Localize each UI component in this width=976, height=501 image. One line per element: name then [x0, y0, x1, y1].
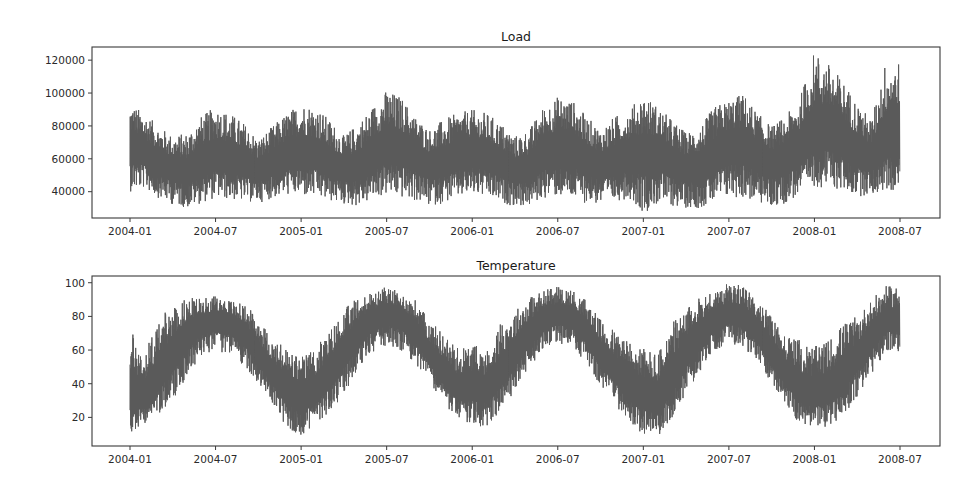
temperature-plot-area: [130, 284, 900, 434]
load-chart-title: Load: [501, 29, 531, 44]
x-tick-label: 2007-01: [621, 225, 665, 237]
load-series-line: [130, 56, 900, 211]
load-y-axis: 400006000080000100000120000: [45, 54, 92, 198]
y-tick-label: 80000: [52, 120, 85, 132]
x-tick-label: 2005-01: [279, 453, 323, 465]
y-tick-label: 40000: [52, 185, 85, 197]
y-tick-label: 40: [72, 378, 85, 390]
x-tick-label: 2007-07: [707, 225, 751, 237]
temperature-chart-title: Temperature: [475, 258, 555, 273]
temperature-y-axis: 20406080100: [65, 277, 92, 424]
y-tick-label: 120000: [45, 54, 85, 66]
x-tick-label: 2004-07: [194, 453, 238, 465]
y-tick-label: 100000: [45, 87, 85, 99]
load-x-axis: 2004-012004-072005-012005-072006-012006-…: [108, 218, 922, 237]
x-tick-label: 2008-01: [793, 225, 837, 237]
x-tick-label: 2008-07: [878, 225, 922, 237]
x-tick-label: 2005-01: [279, 225, 323, 237]
load-plot-area: [130, 56, 900, 211]
x-tick-label: 2007-01: [621, 453, 665, 465]
y-tick-label: 100: [65, 277, 85, 289]
y-tick-label: 60000: [52, 153, 85, 165]
y-tick-label: 60: [72, 344, 85, 356]
figure: Load 400006000080000100000120000 2004-01…: [0, 0, 976, 501]
x-tick-label: 2008-01: [793, 453, 837, 465]
x-tick-label: 2006-07: [536, 225, 580, 237]
x-tick-label: 2005-07: [365, 453, 409, 465]
x-tick-label: 2008-07: [878, 453, 922, 465]
x-tick-label: 2006-01: [450, 225, 494, 237]
x-tick-label: 2006-07: [536, 453, 580, 465]
x-tick-label: 2004-01: [108, 225, 152, 237]
x-tick-label: 2006-01: [450, 453, 494, 465]
temperature-subplot: Temperature 20406080100 2004-012004-0720…: [65, 258, 940, 465]
temperature-series-line: [130, 284, 900, 434]
temperature-x-axis: 2004-012004-072005-012005-072006-012006-…: [108, 446, 922, 465]
x-tick-label: 2004-01: [108, 453, 152, 465]
load-subplot: Load 400006000080000100000120000 2004-01…: [45, 29, 940, 237]
x-tick-label: 2005-07: [365, 225, 409, 237]
x-tick-label: 2004-07: [194, 225, 238, 237]
y-tick-label: 20: [72, 411, 85, 423]
y-tick-label: 80: [72, 310, 85, 322]
x-tick-label: 2007-07: [707, 453, 751, 465]
